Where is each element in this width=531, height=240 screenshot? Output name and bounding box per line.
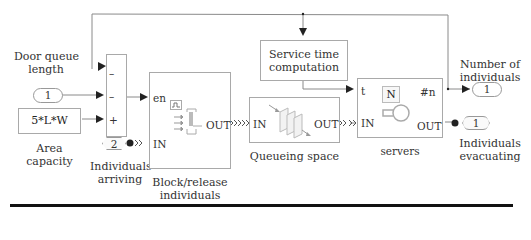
label-line: Number of [455,58,525,71]
server-icon [382,103,414,125]
port-en: en [153,92,166,104]
label-line: computation [261,61,347,74]
inport-individuals-arriving[interactable]: 2 [102,137,126,150]
port-out: OUT [206,119,230,131]
individuals-evacuating-label: Individuals evacuating [455,137,525,163]
outport-number-of-individuals[interactable]: 1 [472,82,502,97]
port-n: #n [420,86,436,98]
port-t: t [361,85,365,97]
service-time-title: Service time computation [261,48,347,74]
individuals-arriving-label: Individuals arriving [90,160,150,186]
label-line: Individuals [455,137,525,150]
number-of-individuals-label: Number of individuals [455,58,525,84]
label-line: arriving [90,173,150,186]
label-line: capacity [18,155,81,168]
label-line: Area [18,142,81,155]
label-line: Block/release [148,176,232,189]
label-line: Door queue [14,50,78,63]
service-time-block[interactable]: Service time computation [260,40,348,81]
label-line: Service time [261,48,347,61]
sum-sign-2: – [109,90,114,102]
gate-icon [170,100,206,138]
port-in: IN [361,117,374,129]
inport-door-queue[interactable]: 1 [33,88,63,103]
door-queue-label: Door queue length [14,50,78,76]
sum-sign-1: – [109,67,114,79]
label-line: evacuating [455,150,525,163]
servers-n-param: N [382,86,400,103]
queue-label: Queueing space [249,150,340,163]
port-in: IN [253,118,266,130]
port-out: OUT [314,118,338,130]
servers-block[interactable]: t IN #n OUT N [357,78,443,138]
label-line: length [14,63,78,76]
queue-block[interactable]: IN OUT [249,97,340,143]
servers-label: servers [357,145,443,158]
figure-bottom-rule [10,204,513,207]
outport-individuals-evacuating[interactable]: 1 [462,116,490,130]
label-line: Individuals [90,160,150,173]
block-release-gate[interactable]: en IN OUT [149,72,231,169]
port-out: OUT [417,120,441,132]
queue-icon [267,102,317,140]
area-capacity-label: Area capacity [18,142,81,168]
sum-sign-3: + [109,114,118,126]
constant-area-capacity[interactable]: 5*L*W [18,108,81,134]
block-release-label: Block/release individuals [148,176,232,202]
sum-block[interactable]: – – + [106,54,127,137]
label-line: individuals [148,189,232,202]
port-in: IN [153,138,166,150]
